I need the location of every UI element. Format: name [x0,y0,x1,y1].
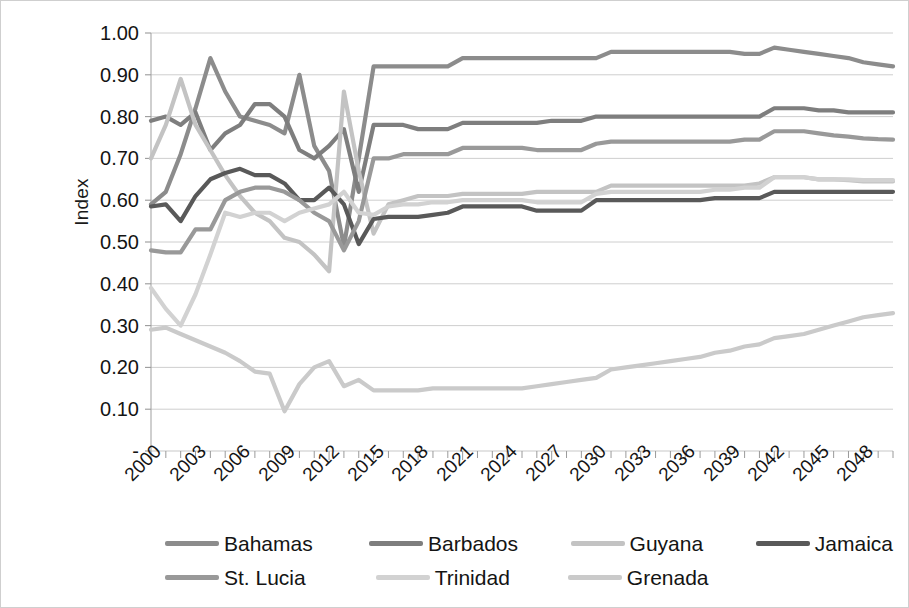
y-tick-label: - [53,441,139,461]
legend-row-top: Bahamas Barbados Guyana Jamaica [151,526,893,560]
line-chart-svg [151,33,893,451]
y-tick-label: 1.00 [53,23,139,43]
y-tick-label: 0.90 [53,65,139,85]
legend-item-barbados[interactable]: Barbados [369,533,518,554]
legend-label-jamaica: Jamaica [815,533,893,554]
legend-swatch-guyana [571,541,625,546]
y-tick-label: 0.50 [53,232,139,252]
legend-swatch-jamaica [756,541,810,546]
legend-swatch-barbados [369,541,423,546]
legend-item-guyana[interactable]: Guyana [571,533,704,554]
legend-swatch-bahamas [165,541,219,546]
legend-label-bahamas: Bahamas [224,533,313,554]
legend-item-bahamas[interactable]: Bahamas [165,533,313,554]
legend-label-st-lucia: St. Lucia [224,567,306,588]
series-line-jamaica[interactable] [151,169,893,244]
legend-swatch-trinidad [376,575,430,580]
legend-row-bottom: St. Lucia Trinidad Grenada [151,560,893,594]
legend-item-grenada[interactable]: Grenada [568,567,709,588]
chart-legend: Bahamas Barbados Guyana Jamaica St. Luci… [151,526,893,596]
y-tick-label: 0.20 [53,357,139,377]
plot-area [151,33,893,451]
chart-container: Index 1.000.900.800.700.600.500.400.300.… [0,0,909,608]
y-tick-label: 0.40 [53,274,139,294]
legend-item-trinidad[interactable]: Trinidad [376,567,510,588]
series-line-trinidad[interactable] [151,177,893,325]
legend-item-jamaica[interactable]: Jamaica [756,533,893,554]
legend-label-grenada: Grenada [627,567,709,588]
y-tick-label: 0.60 [53,190,139,210]
legend-swatch-grenada [568,575,622,580]
legend-swatch-st-lucia [165,575,219,580]
legend-label-barbados: Barbados [428,533,518,554]
legend-label-trinidad: Trinidad [435,567,510,588]
y-tick-label: 0.10 [53,399,139,419]
series-line-grenada[interactable] [151,313,893,411]
y-tick-label: 0.80 [53,107,139,127]
y-tick-label: 0.30 [53,316,139,336]
y-axis-tick-labels: 1.000.900.800.700.600.500.400.300.200.10… [53,1,139,608]
legend-item-st-lucia[interactable]: St. Lucia [165,567,306,588]
legend-label-guyana: Guyana [630,533,704,554]
y-tick-label: 0.70 [53,148,139,168]
